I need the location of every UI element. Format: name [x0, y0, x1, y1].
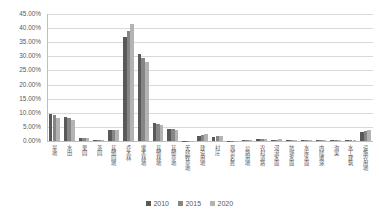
x-axis-category-label: 其他林地 [155, 145, 160, 165]
y-axis-tick-label: 40.00% [19, 25, 41, 31]
bar-group [271, 14, 282, 141]
legend-item[interactable]: 2020 [210, 200, 233, 207]
bar [145, 62, 149, 141]
bar-group [330, 14, 341, 141]
x-axis-category-label: 村庄 [215, 145, 220, 155]
bar-series-layer [47, 14, 373, 142]
x-axis-category-label: 坑塘水面 [289, 145, 294, 165]
bar-group [227, 14, 238, 141]
x-axis-category-label: 公路用地 [244, 145, 249, 165]
bar [175, 130, 179, 141]
bar-group [197, 14, 208, 141]
bar [86, 138, 90, 141]
x-axis-category-label: 沟渠 [333, 145, 338, 155]
y-axis-tick-label: 30.00% [19, 53, 41, 59]
bar [204, 134, 208, 141]
legend-swatch [178, 201, 183, 206]
x-axis-category-label: 灌木林地 [141, 145, 146, 165]
bar [219, 136, 223, 141]
bar-group [212, 14, 223, 141]
bar [101, 140, 105, 141]
bar-group [93, 14, 104, 141]
x-axis-category-label: 茶园 [96, 145, 101, 155]
bar-group [182, 14, 193, 141]
bar-chart: 0.00%5.00%10.00%15.00%20.00%25.00%30.00%… [0, 0, 379, 220]
bar-group [286, 14, 297, 141]
x-axis-category-label: 内陆滩涂 [318, 145, 323, 165]
bar [115, 130, 119, 141]
y-axis-tick-label: 20.00% [19, 81, 41, 87]
bar-group [108, 14, 119, 141]
y-axis-tick-label: 15.00% [19, 95, 41, 101]
bar-group [242, 14, 253, 141]
x-axis-category-label: 农村道路 [259, 145, 264, 165]
bar-group [345, 14, 356, 141]
bar [338, 140, 342, 141]
bar [293, 140, 297, 141]
x-axis-category-label: 设施农用地 [363, 145, 368, 170]
bar-group [64, 14, 75, 141]
bar [308, 140, 312, 141]
bar-group [49, 14, 60, 141]
bar [367, 130, 371, 141]
x-axis-category-label: 其他园地 [111, 145, 116, 165]
bar [278, 139, 282, 141]
legend-label: 2010 [153, 200, 169, 207]
legend-item[interactable]: 2015 [178, 200, 201, 207]
legend-swatch [210, 201, 215, 206]
bar-group [123, 14, 134, 141]
legend-label: 2020 [218, 200, 234, 207]
x-axis-category-label: 水库水面 [304, 145, 309, 165]
bar [130, 24, 134, 141]
x-axis-category-label: 水田 [67, 145, 72, 155]
bar [160, 125, 164, 141]
y-axis-tick-label: 10.00% [19, 110, 41, 116]
bar [353, 140, 357, 141]
x-axis-category-labels: 旱地水田果园茶园其他园地乔木林灌木林地其他林地其他草地天然牧草地建设用地村庄风景… [47, 145, 373, 197]
bar-group [256, 14, 267, 141]
bar-group [167, 14, 178, 141]
x-axis-category-label: 天然牧草地 [185, 145, 190, 170]
y-axis-tick-label: 25.00% [19, 67, 41, 73]
legend-item[interactable]: 2010 [146, 200, 169, 207]
x-axis-category-label: 建设用地 [200, 145, 205, 165]
bar-group [138, 14, 149, 141]
plot-area [47, 14, 373, 142]
x-axis-category-label: 水工建筑 [348, 145, 353, 165]
y-axis-tick-labels: 0.00%5.00%10.00%15.00%20.00%25.00%30.00%… [0, 14, 44, 142]
y-axis-tick-label: 45.00% [19, 11, 41, 17]
chart-legend: 201020152020 [0, 200, 379, 207]
x-axis-category-label: 河流水面 [274, 145, 279, 165]
bar-group [301, 14, 312, 141]
bar-group [360, 14, 371, 141]
bar [323, 140, 327, 141]
y-axis-tick-label: 5.00% [23, 124, 41, 130]
x-axis-category-label: 其他草地 [170, 145, 175, 165]
y-axis-tick-label: 35.00% [19, 39, 41, 45]
bar-group [79, 14, 90, 141]
x-axis-category-label: 果园 [81, 145, 86, 155]
bar-group [153, 14, 164, 141]
legend-label: 2015 [185, 200, 201, 207]
y-axis-tick-label: 0.00% [23, 138, 41, 144]
legend-swatch [146, 201, 151, 206]
x-axis-category-label: 乔木林 [126, 145, 131, 160]
bar [249, 140, 253, 141]
bar [56, 118, 60, 141]
bar-group [316, 14, 327, 141]
bar [71, 120, 75, 141]
bar [264, 139, 268, 141]
x-axis-category-label: 风景名胜 [230, 145, 235, 165]
x-axis-category-label: 旱地 [52, 145, 57, 155]
